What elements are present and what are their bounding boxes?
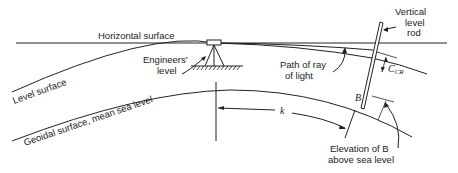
horizontal-surface-label: Horizontal surface [98,30,175,41]
elevation-label-line2: above sea level [328,154,394,165]
geoidal-surface-label: Geoidal surface, mean sea level [22,93,154,148]
tripod-leg-right [214,45,224,66]
k-arrowhead-left-icon [218,106,224,110]
vertical-rod-label-line3: rod [407,27,421,38]
elev-tick-top [372,96,394,102]
tripod-leg-left [205,45,214,66]
curvature-refraction-diagram: Horizontal surface Engineers' level Leve… [0,0,458,173]
vertical-level-rod [361,22,383,109]
geoidal-surface-curve [12,90,412,141]
ccr-tick-top [377,52,397,58]
elevation-label-line1: Elevation of B [330,143,389,154]
engineers-level-instrument [207,40,221,45]
rod-extension-line [345,110,355,138]
rod-arrowhead-icon [383,27,388,32]
engineers-level-label-line2: level [157,65,177,76]
ground-hatch-icon [193,66,240,70]
ccr-arrow-down-icon [381,67,385,72]
k-arrowhead-right-icon [339,125,346,129]
path-of-ray-label-line2: of light [285,70,313,81]
path-of-ray-label-line1: Path of ray [280,59,326,70]
k-label: k [280,105,285,116]
ccr-arrow-up-icon [384,57,388,62]
elev-label-arrow [386,104,399,148]
point-b-label: B [355,92,361,103]
engineers-level-label-line1: Engineers' [143,54,188,65]
vertical-rod-label-line1: Vertical [395,6,426,17]
k-arrow-right [292,113,345,128]
ccr-label: CCR [388,63,404,76]
k-arrow-left [218,108,275,110]
